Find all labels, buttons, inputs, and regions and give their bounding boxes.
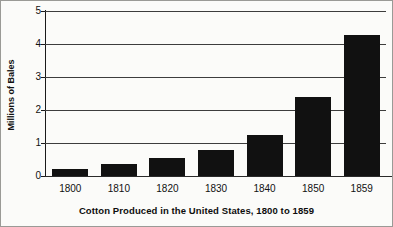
plot-area: 012345 (45, 11, 386, 176)
y-axis-tick-mark (41, 77, 45, 78)
bar-slot (143, 11, 192, 176)
x-axis-tick-label: 1859 (351, 183, 373, 194)
bar-slot (289, 11, 338, 176)
y-axis-tick-mark (41, 143, 45, 144)
y-axis-tick-mark (41, 11, 45, 12)
x-axis-tick-label: 1810 (108, 183, 130, 194)
y-axis-tick-label: 3 (35, 72, 41, 82)
bar-slot (337, 11, 386, 176)
chart-title: Cotton Produced in the United States, 18… (1, 205, 392, 216)
bar (52, 169, 88, 176)
x-axis-tick-label: 1840 (253, 183, 275, 194)
y-axis-title-text: Millions of Bales (5, 59, 15, 130)
bar-slot (46, 11, 95, 176)
x-axis-ticks-group: 1800181018201830184018501859 (46, 183, 386, 197)
bar (247, 135, 283, 176)
y-axis-tick-label: 0 (35, 171, 41, 181)
bar-slot (240, 11, 289, 176)
x-axis-tick-label: 1850 (302, 183, 324, 194)
bar-slot (192, 11, 241, 176)
bar (149, 158, 185, 176)
y-axis-title: Millions of Bales (3, 25, 17, 165)
x-axis-tick-label: 1820 (156, 183, 178, 194)
bar (101, 164, 137, 176)
y-axis-tick-mark (41, 176, 45, 177)
x-axis-tick-label: 1830 (205, 183, 227, 194)
x-axis-tick-label: 1800 (59, 183, 81, 194)
chart-figure: Millions of Bales 012345 180018101820183… (0, 0, 393, 227)
bar (295, 97, 331, 176)
bar-slot (95, 11, 144, 176)
y-axis-tick-mark (41, 44, 45, 45)
y-axis-tick-mark (41, 110, 45, 111)
y-axis-tick-label: 2 (35, 105, 41, 115)
y-axis-tick-label: 4 (35, 39, 41, 49)
y-axis-tick-label: 1 (35, 138, 41, 148)
bar (344, 35, 380, 176)
y-axis-tick-label: 5 (35, 6, 41, 16)
x-axis-baseline (45, 176, 393, 177)
bar (198, 150, 234, 176)
bars-group (46, 11, 386, 176)
